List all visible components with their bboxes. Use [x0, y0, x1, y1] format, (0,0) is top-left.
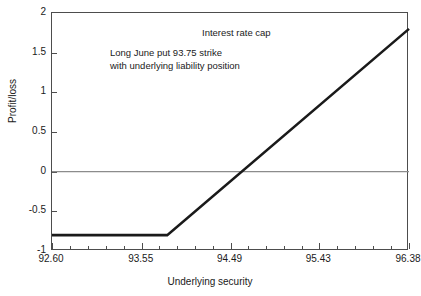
- y-axis-tick-label: 1.5: [6, 47, 46, 57]
- x-axis-tick-label: 96.38: [395, 254, 420, 264]
- x-axis-tick-label: 95.43: [306, 254, 331, 264]
- y-axis-tick-label: 1: [6, 86, 46, 96]
- plot-area: Interest rate cap Long June put 93.75 st…: [51, 12, 408, 250]
- y-axis-tick-label: -0.5: [6, 205, 46, 215]
- x-axis-tick-label: 93.55: [128, 254, 153, 264]
- y-axis-tick-label: 2: [6, 7, 46, 17]
- x-axis-major-tick: [409, 243, 410, 249]
- y-axis-tick-label: 0: [6, 166, 46, 176]
- series-plot: [52, 13, 409, 251]
- payoff-line: [52, 29, 409, 235]
- y-axis-tick-label: 0.5: [6, 126, 46, 136]
- x-axis-tick-label: 94.49: [217, 254, 242, 264]
- x-axis-title: Underlying security: [0, 276, 420, 287]
- x-axis-tick-label: 92.60: [38, 254, 63, 264]
